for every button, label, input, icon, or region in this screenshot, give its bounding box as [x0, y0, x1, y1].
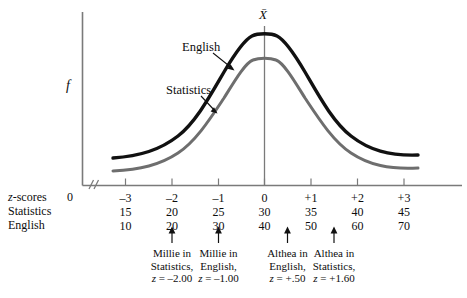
statistics-curve-label: Statistics — [166, 84, 211, 97]
english-scale-value: 30 — [199, 219, 239, 234]
z-tick-value: +3 — [384, 191, 424, 206]
statistics-distribution-curve — [113, 58, 418, 171]
axis-break-icon — [89, 180, 99, 189]
mean-marker-label: X̄ — [259, 8, 267, 21]
z-tick-value: 0 — [245, 191, 285, 206]
annotation-z-value: = +1.60 — [318, 272, 355, 284]
annotation-z-line: z = –1.00 — [180, 272, 258, 285]
statistics-scale-value: 25 — [199, 205, 239, 220]
annotation-z-value: = –1.00 — [202, 272, 238, 284]
origin-zero-label: 0 — [67, 191, 73, 203]
english-scale-value: 10 — [106, 219, 146, 234]
statistics-scale-value: 20 — [152, 205, 192, 220]
english-distribution-curve — [113, 34, 418, 158]
clipped-top-text — [4, 0, 7, 7]
z-tick-value: –3 — [106, 191, 146, 206]
annotation-z-line: z = +1.60 — [295, 272, 373, 285]
z-tick-value: –1 — [199, 191, 239, 206]
english-scale-value: 70 — [384, 219, 424, 234]
english-scale-value: 60 — [338, 219, 378, 234]
statistics-scale-value: 35 — [291, 205, 331, 220]
marker-arrow-althea-statistics — [331, 227, 338, 244]
english-scale-value: 50 — [291, 219, 331, 234]
z-score-distribution-figure: X̄ f English Statistics z-scores Statist… — [0, 0, 467, 298]
row-label-english: English — [8, 219, 45, 231]
english-curve-label: English — [182, 41, 220, 54]
row-label-z-scores: z-scores — [8, 191, 47, 203]
english-scale-value: 40 — [245, 219, 285, 234]
z-tick-value: –2 — [152, 191, 192, 206]
annotation-line-1: Millie in — [180, 247, 258, 260]
annotation-line-2: Statistics, — [295, 260, 373, 273]
y-axis-label: f — [66, 79, 70, 93]
annotation-line-1: Althea in — [295, 247, 373, 260]
z-tick-value: +2 — [338, 191, 378, 206]
marker-arrow-althea-english — [284, 227, 291, 244]
english-scale-value: 20 — [152, 219, 192, 234]
statistics-scale-value: 45 — [384, 205, 424, 220]
statistics-scale-value: 15 — [106, 205, 146, 220]
row-label-z-scores-suffix: -scores — [13, 190, 47, 204]
z-tick-value: +1 — [291, 191, 331, 206]
annotation-millie-english: Millie in English, z = –1.00 — [180, 247, 258, 285]
statistics-scale-value: 30 — [245, 205, 285, 220]
statistics-scale-value: 40 — [338, 205, 378, 220]
annotation-line-2: English, — [180, 260, 258, 273]
row-label-statistics: Statistics — [8, 205, 51, 217]
annotation-althea-statistics: Althea in Statistics, z = +1.60 — [295, 247, 373, 285]
